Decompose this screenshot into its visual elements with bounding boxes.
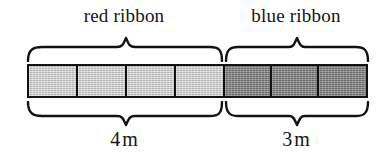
bottom-brace-4m (25, 101, 225, 127)
measurement-value: 4 (110, 128, 120, 150)
ribbon-cell (272, 66, 319, 96)
ribbon-cell (78, 66, 127, 96)
ribbon-cell (176, 66, 225, 96)
ribbon-cell (29, 66, 78, 96)
ribbon-cell (319, 66, 366, 96)
red-ribbon-label: red ribbon (84, 4, 165, 28)
ribbon-cell (225, 66, 272, 96)
ribbon-length-diagram: red ribbon blue ribbon 4m 3m (0, 0, 391, 158)
ribbon-cell (127, 66, 176, 96)
measurement-value: 3 (282, 128, 292, 150)
ribbon-bar (27, 64, 368, 98)
top-brace-red-ribbon (25, 36, 225, 62)
measurement-unit: m (294, 128, 310, 150)
top-brace-blue-ribbon (223, 36, 371, 62)
bottom-brace-3m (223, 101, 371, 127)
blue-ribbon-label: blue ribbon (251, 4, 340, 28)
measurement-unit: m (122, 128, 138, 150)
measurement-label-red: 4m (110, 126, 138, 152)
measurement-label-blue: 3m (282, 126, 310, 152)
